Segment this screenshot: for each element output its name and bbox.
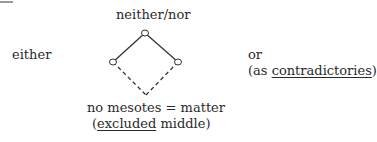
edge-right-bottom xyxy=(146,62,178,95)
edge-left-bottom xyxy=(113,62,146,95)
bottom-label-suffix: middle) xyxy=(156,116,210,131)
left-label: either xyxy=(12,47,51,62)
edge-top-right xyxy=(145,33,178,62)
right-label-line1: or xyxy=(248,47,262,62)
right-label-prefix: (as xyxy=(248,63,272,78)
bottom-label-line1: no mesotes = matter xyxy=(87,100,225,115)
node-left-circle-icon xyxy=(110,59,117,65)
top-label: neither/nor xyxy=(116,7,191,22)
right-label-suffix: ) xyxy=(372,63,377,78)
bottom-label-line2: (excluded middle) xyxy=(92,116,210,131)
node-right-circle-icon xyxy=(175,59,182,65)
node-top-circle-icon xyxy=(142,30,149,36)
right-label-line2: (as contradictories) xyxy=(248,63,377,78)
edge-top-left xyxy=(113,33,145,62)
right-label-underlined: contradictories xyxy=(272,63,372,78)
bottom-label-underlined: excluded xyxy=(97,116,156,131)
